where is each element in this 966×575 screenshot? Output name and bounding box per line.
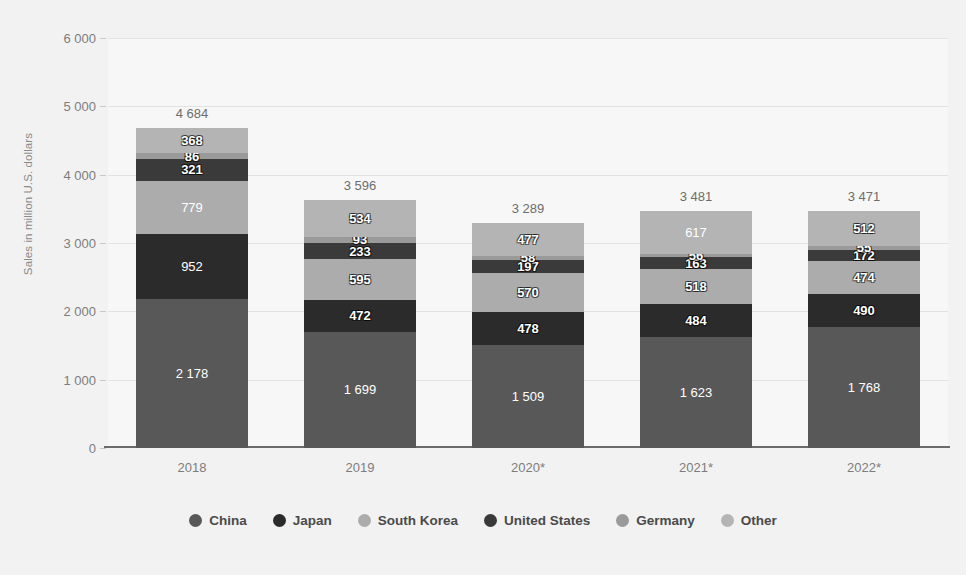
bar-segment[interactable]: 518 xyxy=(640,269,752,304)
bar-segment-value: 2 178 xyxy=(176,367,209,380)
bar-segment-value: 490 xyxy=(853,304,875,317)
bar-segment[interactable]: 617 xyxy=(640,211,752,253)
y-axis-tick-label: 3 000 xyxy=(0,236,96,251)
bar-segment-value: 474 xyxy=(853,271,875,284)
legend-swatch-icon xyxy=(484,514,497,527)
legend-swatch-icon xyxy=(721,514,734,527)
bar-segment-value: 478 xyxy=(517,322,539,335)
bar-segment-value: 321 xyxy=(181,163,203,176)
y-axis-tickmark xyxy=(100,106,106,107)
legend-swatch-icon xyxy=(358,514,371,527)
legend-label: Other xyxy=(741,513,777,528)
legend-item[interactable]: United States xyxy=(484,513,590,528)
bar-segment[interactable]: 472 xyxy=(304,300,416,332)
bar-segment-value: 1 623 xyxy=(680,386,713,399)
bar-segment-value: 484 xyxy=(685,314,707,327)
legend-item[interactable]: Japan xyxy=(273,513,332,528)
bar-segment[interactable]: 490 xyxy=(808,294,920,327)
bar-segment[interactable]: 595 xyxy=(304,259,416,300)
stacked-bar-chart: Sales in million U.S. dollars 01 0002 00… xyxy=(0,0,966,575)
bar-total-value: 4 684 xyxy=(136,106,248,121)
bar-segment[interactable]: 952 xyxy=(136,234,248,299)
y-axis-tick-label: 4 000 xyxy=(0,167,96,182)
bar-segment[interactable]: 534 xyxy=(304,200,416,236)
bar-segment-value: 779 xyxy=(181,201,203,214)
y-axis-tick-label: 1 000 xyxy=(0,372,96,387)
y-axis-tickmark xyxy=(100,243,106,244)
chart-legend: ChinaJapanSouth KoreaUnited StatesGerman… xyxy=(0,513,966,528)
bar-total-value: 3 596 xyxy=(304,178,416,193)
bar-stack[interactable]: 1 623484518163566173 481 xyxy=(640,38,752,448)
bar-segment-value: 617 xyxy=(685,226,707,239)
y-axis-tickmark xyxy=(100,38,106,39)
bar-segment[interactable]: 56 xyxy=(640,254,752,258)
y-axis-tickmark xyxy=(100,175,106,176)
bar-segment[interactable]: 1 623 xyxy=(640,337,752,448)
bar-segment-value: 1 699 xyxy=(344,383,377,396)
x-axis-tick-label: 2020* xyxy=(472,460,584,475)
bar-segment[interactable]: 1 509 xyxy=(472,345,584,448)
legend-item[interactable]: Germany xyxy=(616,513,695,528)
bar-stack[interactable]: 1 509478570197584773 289 xyxy=(472,38,584,448)
x-axis-tick-label: 2021* xyxy=(640,460,752,475)
y-axis-tick-label: 6 000 xyxy=(0,31,96,46)
bar-segment[interactable]: 478 xyxy=(472,312,584,345)
bar-segment-value: 477 xyxy=(517,233,539,246)
bar-segment[interactable]: 368 xyxy=(136,128,248,153)
bar-segment-value: 518 xyxy=(685,280,707,293)
bar-segment-value: 534 xyxy=(349,212,371,225)
y-axis-tick-label: 2 000 xyxy=(0,304,96,319)
bar-segment[interactable]: 58 xyxy=(472,256,584,260)
legend-label: China xyxy=(209,513,247,528)
bar-segment[interactable]: 477 xyxy=(472,223,584,256)
legend-item[interactable]: South Korea xyxy=(358,513,458,528)
bar-total-value: 3 471 xyxy=(808,189,920,204)
bar-segment-value: 368 xyxy=(181,134,203,147)
bar-total-value: 3 289 xyxy=(472,201,584,216)
x-axis-tick-label: 2018 xyxy=(136,460,248,475)
bar-segment[interactable]: 512 xyxy=(808,211,920,246)
bar-segment-value: 952 xyxy=(181,260,203,273)
bar-stack[interactable]: 2 178952779321863684 684 xyxy=(136,38,248,448)
bar-segment[interactable]: 474 xyxy=(808,261,920,293)
bar-segment-value: 570 xyxy=(517,286,539,299)
bar-segment[interactable]: 570 xyxy=(472,273,584,312)
bar-segment-value: 595 xyxy=(349,273,371,286)
bar-segment[interactable]: 1 768 xyxy=(808,327,920,448)
bar-total-value: 3 481 xyxy=(640,189,752,204)
legend-item[interactable]: China xyxy=(189,513,247,528)
y-axis-tickmark xyxy=(100,311,106,312)
y-axis-tickmark xyxy=(100,380,106,381)
legend-label: Japan xyxy=(293,513,332,528)
bar-segment[interactable]: 2 178 xyxy=(136,299,248,448)
bar-stack[interactable]: 1 768490474172555123 471 xyxy=(808,38,920,448)
bar-segment-value: 512 xyxy=(853,222,875,235)
legend-label: South Korea xyxy=(378,513,458,528)
bar-segment[interactable]: 55 xyxy=(808,246,920,250)
legend-item[interactable]: Other xyxy=(721,513,777,528)
bar-stack[interactable]: 1 699472595233935343 596 xyxy=(304,38,416,448)
bar-segment[interactable]: 93 xyxy=(304,237,416,243)
bar-segment[interactable]: 779 xyxy=(136,181,248,234)
legend-label: Germany xyxy=(636,513,695,528)
legend-swatch-icon xyxy=(273,514,286,527)
bar-segment[interactable]: 86 xyxy=(136,153,248,159)
bar-segment-value: 1 509 xyxy=(512,390,545,403)
bar-segment-value: 1 768 xyxy=(848,381,881,394)
bar-segment[interactable]: 484 xyxy=(640,304,752,337)
bar-segment[interactable]: 1 699 xyxy=(304,332,416,448)
x-axis-tick-label: 2019 xyxy=(304,460,416,475)
legend-swatch-icon xyxy=(616,514,629,527)
y-axis-tick-label: 5 000 xyxy=(0,99,96,114)
x-axis-tick-label: 2022* xyxy=(808,460,920,475)
legend-label: United States xyxy=(504,513,590,528)
y-axis-tick-label: 0 xyxy=(0,441,96,456)
y-axis-tickmark xyxy=(100,448,106,449)
legend-swatch-icon xyxy=(189,514,202,527)
bar-segment-value: 472 xyxy=(349,309,371,322)
